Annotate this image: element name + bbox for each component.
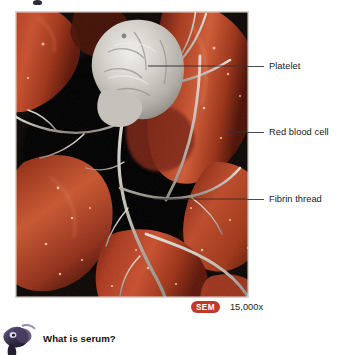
callout-label: Fibrin thread	[264, 193, 322, 206]
callout-platelet: Platelet	[247, 60, 300, 73]
sem-badge: SEM	[191, 301, 220, 313]
callout-fibrin-thread: Fibrin thread	[247, 193, 322, 206]
leader-line-icon	[247, 66, 264, 67]
callout-label: Red blood cell	[264, 126, 329, 139]
leader-line-icon	[247, 199, 264, 200]
question-text: What is serum?	[43, 332, 116, 345]
sem-micrograph-image	[16, 12, 248, 297]
magnification-value: 15,000x	[230, 301, 263, 313]
callout-label: Platelet	[264, 60, 300, 73]
callout-red-blood-cell: Red blood cell	[247, 126, 329, 139]
figure-panel: Platelet Red blood cell Fibrin thread SE…	[0, 0, 338, 310]
question-row: What is serum?	[0, 322, 338, 355]
leader-line-icon	[247, 132, 264, 133]
magnification-row: SEM 15,000x	[191, 301, 263, 313]
magnifier-mascot-icon	[2, 324, 40, 355]
